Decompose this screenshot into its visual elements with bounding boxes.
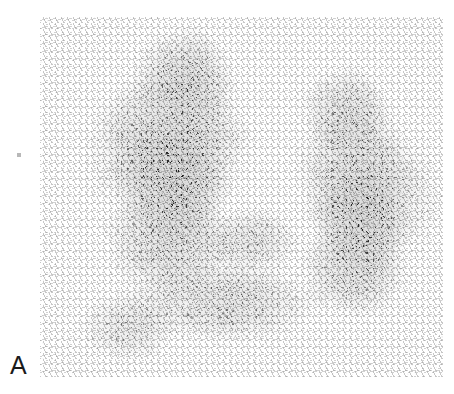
dot-artifact-icon — [17, 153, 21, 157]
figure-panel: A — [0, 0, 454, 394]
thyroid-scintigram-image — [40, 17, 443, 377]
scan-vignette — [40, 17, 443, 377]
panel-label: A — [10, 352, 27, 378]
